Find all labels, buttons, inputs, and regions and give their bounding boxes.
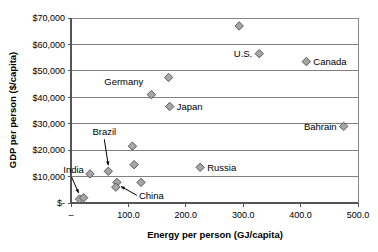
y-tick-label: $- [57, 198, 65, 208]
y-tick-label: $50,000 [32, 66, 65, 76]
point-label: Brazil [92, 126, 116, 137]
point-label: Russia [207, 162, 237, 173]
data-points [75, 22, 347, 204]
plot-frame [71, 18, 358, 203]
point-label: Canada [313, 56, 347, 67]
point-label: Germany [104, 76, 143, 87]
point-label: Japan [177, 101, 203, 112]
x-tick-label: 300.0 [232, 210, 255, 220]
data-point-marker [137, 178, 145, 186]
data-point-marker [196, 163, 204, 171]
y-tick-label: $10,000 [32, 172, 65, 182]
point-label: U.S. [234, 48, 252, 59]
point-label: India [63, 164, 84, 175]
x-tick-label: 200.0 [175, 210, 198, 220]
x-axis-ticks: –100.0200.0300.0400.0500.0 [68, 203, 369, 220]
y-tick-label: $30,000 [32, 119, 65, 129]
x-tick-label: 100.0 [117, 210, 140, 220]
data-point-marker [130, 160, 138, 168]
x-axis-title: Energy per person (GJ/capita) [147, 229, 283, 240]
point-label: Bahrain [304, 121, 337, 132]
data-point-marker [164, 73, 172, 81]
x-tick-label: 400.0 [289, 210, 312, 220]
data-point-marker [128, 142, 136, 150]
y-tick-label: $20,000 [32, 145, 65, 155]
data-point-marker [302, 57, 310, 65]
data-point-marker [235, 22, 243, 30]
x-tick-label: 500.0 [347, 210, 370, 220]
gridlines [71, 18, 358, 177]
data-point-marker [104, 167, 112, 175]
annotation-leader-line [104, 139, 108, 165]
data-point-marker [166, 102, 174, 110]
y-tick-label: $40,000 [32, 93, 65, 103]
y-axis-title: GDP per person ($/capita) [7, 52, 18, 169]
data-point-marker [255, 49, 263, 57]
y-tick-label: $60,000 [32, 40, 65, 50]
y-tick-label: $70,000 [32, 13, 65, 23]
point-label: China [139, 190, 165, 201]
x-tick-label: – [68, 210, 73, 220]
y-axis-ticks: $-$10,000$20,000$30,000$40,000$50,000$60… [32, 13, 71, 208]
chart-canvas: –100.0200.0300.0400.0500.0 $-$10,000$20,… [0, 0, 378, 252]
scatter-chart: –100.0200.0300.0400.0500.0 $-$10,000$20,… [0, 0, 378, 252]
